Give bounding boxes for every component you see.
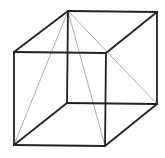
diagonal-back-top-left-to-front-bottom-right: [68, 11, 105, 146]
edge-front-top-right-to-back-top-right: [106, 12, 157, 53]
diagonal-back-top-left-to-back-bottom-right: [68, 11, 157, 104]
cube-edges: [14, 11, 157, 146]
cube-diagram: [0, 0, 165, 158]
edge-back-bottom-left-to-back-top-left: [67, 11, 68, 103]
edge-front-top-left-to-front-top-right: [14, 52, 106, 53]
edge-front-top-right-to-front-bottom-right: [105, 53, 106, 146]
cube-diagonals: [14, 11, 157, 146]
edge-front-bottom-left-to-back-bottom-left: [14, 103, 67, 145]
edge-front-bottom-right-to-front-bottom-left: [14, 145, 105, 146]
edge-back-top-left-to-back-top-right: [68, 11, 157, 12]
edge-front-bottom-right-to-back-bottom-right: [105, 104, 157, 146]
edge-back-bottom-right-to-back-bottom-left: [67, 103, 157, 104]
